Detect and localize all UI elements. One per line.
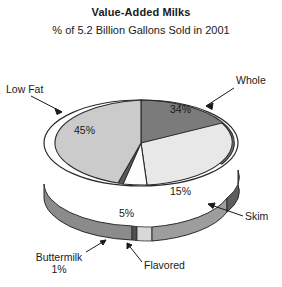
callout-label-buttermilk: Buttermilk 1% bbox=[28, 251, 90, 275]
callout-label-flavored: Flavored bbox=[144, 259, 185, 271]
wall-whole bbox=[227, 170, 239, 212]
callout-label-low-fat: Low Fat bbox=[6, 83, 43, 95]
value-label-skim: 15% bbox=[170, 185, 191, 197]
arrowhead-skim bbox=[208, 203, 215, 209]
pie-top-face bbox=[55, 100, 234, 185]
value-label-low-fat: 45% bbox=[74, 124, 95, 136]
arrowhead-low-fat bbox=[55, 109, 62, 115]
callout-label-skim: Skim bbox=[245, 210, 268, 222]
arrowhead-buttermilk bbox=[100, 240, 106, 245]
value-label-whole: 34% bbox=[170, 103, 191, 115]
wall-buttermilk bbox=[132, 226, 137, 241]
wall-flavored bbox=[137, 227, 152, 241]
pie-chart-figure: Value-Added Milks % of 5.2 Billion Gallo… bbox=[0, 0, 282, 287]
wall-skim bbox=[152, 198, 227, 241]
callout-label-whole: Whole bbox=[236, 74, 266, 86]
arrowhead-whole bbox=[206, 103, 213, 110]
pie-svg bbox=[0, 0, 282, 287]
value-label-flavored: 5% bbox=[119, 207, 134, 219]
pie-chart-plot: 34% 15% 5% 45% Low Fat Whole Skim Butter… bbox=[0, 0, 282, 287]
buttermilk-value: 1% bbox=[28, 263, 90, 275]
leader-whole bbox=[206, 88, 234, 106]
buttermilk-name: Buttermilk bbox=[28, 251, 90, 263]
